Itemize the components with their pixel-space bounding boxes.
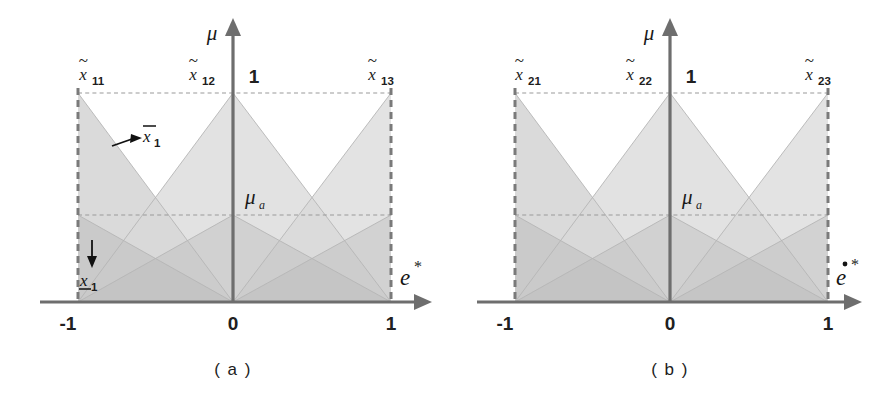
y-tick-one-a: 1 xyxy=(249,66,260,87)
set-label-x23-tilde: ~ xyxy=(804,51,813,70)
set-label-x22: x ~ 22 xyxy=(625,51,652,87)
x-axis-superscript-b: * xyxy=(851,256,859,273)
lower-bound-base: x xyxy=(79,271,88,290)
set-label-x23-sub: 23 xyxy=(818,75,831,87)
set-label-x11: x ~ 11 xyxy=(78,51,105,87)
x-tick-one-b: 1 xyxy=(823,313,834,334)
set-label-x21: x ~ 21 xyxy=(514,51,541,87)
x-axis-arrowhead-b xyxy=(844,294,862,310)
y-axis-label-b: μ xyxy=(643,21,655,45)
mu-a-base-a: μ xyxy=(244,185,256,209)
set-label-x21-sub: 21 xyxy=(528,75,541,87)
figure-container: -1 0 1 μ 1 μ a e * x ~ 11 x ~ 12 x ~ xyxy=(0,0,877,393)
panel-b: -1 0 1 μ 1 μ a e * x ~ 21 x ~ 22 x ~ 23 xyxy=(477,18,862,379)
set-label-x21-tilde: ~ xyxy=(514,51,523,70)
set-label-x13-sub: 13 xyxy=(381,75,394,87)
membership-function-figure: -1 0 1 μ 1 μ a e * x ~ 11 x ~ 12 x ~ xyxy=(0,0,877,393)
y-axis-label-a: μ xyxy=(206,21,218,45)
set-label-x13: x ~ 13 xyxy=(367,51,394,87)
set-label-x11-tilde: ~ xyxy=(78,51,87,70)
set-label-x13-tilde: ~ xyxy=(367,51,376,70)
set-label-x23: x ~ 23 xyxy=(804,51,831,87)
upper-bound-pointer-arrowhead xyxy=(130,134,142,143)
mu-a-base-b: μ xyxy=(681,185,693,209)
upper-bound-annotation: x 1 xyxy=(112,126,161,149)
x-axis-superscript-a: * xyxy=(414,258,422,275)
x-axis-label-b: e xyxy=(836,265,846,290)
set-label-x22-sub: 22 xyxy=(639,75,652,87)
x-tick-zero-a: 0 xyxy=(228,313,239,334)
set-label-x12: x ~ 12 xyxy=(188,51,215,87)
upper-bound-subscript: 1 xyxy=(154,137,161,149)
x-axis-label-a: e xyxy=(400,265,410,290)
y-tick-one-b: 1 xyxy=(686,66,697,87)
panel-caption-a: ( a ) xyxy=(214,360,252,379)
x-tick-neg-one-a: -1 xyxy=(60,313,77,334)
panel-a: -1 0 1 μ 1 μ a e * x ~ 11 x ~ 12 x ~ xyxy=(40,18,432,379)
upper-bound-base: x xyxy=(142,127,151,146)
x-tick-neg-one-b: -1 xyxy=(497,313,514,334)
mu-a-subscript-b: a xyxy=(696,198,702,212)
set-label-x11-sub: 11 xyxy=(92,75,105,87)
y-axis-arrowhead-a xyxy=(225,18,241,36)
x-tick-one-a: 1 xyxy=(386,313,397,334)
x-axis-arrowhead-a xyxy=(414,294,432,310)
x-axis-label-group-a: e * xyxy=(400,258,422,290)
set-label-x22-tilde: ~ xyxy=(625,51,634,70)
set-label-x12-sub: 12 xyxy=(202,75,215,87)
x-tick-zero-b: 0 xyxy=(665,313,676,334)
panel-caption-b: ( b ) xyxy=(651,360,689,379)
y-axis-arrowhead-b xyxy=(662,18,678,36)
x-axis-label-group-b: e * xyxy=(836,256,859,290)
lower-bound-subscript: 1 xyxy=(91,281,98,293)
mu-a-subscript-a: a xyxy=(259,198,265,212)
set-label-x12-tilde: ~ xyxy=(188,51,197,70)
